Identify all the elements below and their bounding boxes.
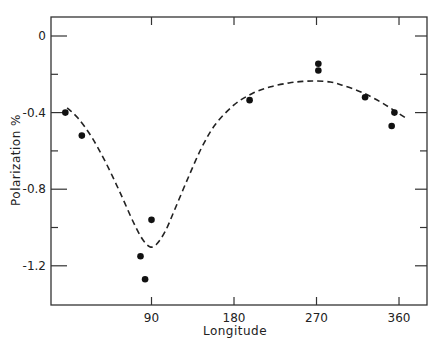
y-axis-label: Polarization % xyxy=(9,114,23,206)
data-point xyxy=(246,97,253,104)
fitted-curve xyxy=(67,81,406,247)
data-point xyxy=(62,109,69,116)
data-point xyxy=(315,67,322,74)
data-point xyxy=(315,60,322,67)
x-axis-label: Longitude xyxy=(203,324,267,338)
x-tick-label: 180 xyxy=(223,311,246,325)
y-axis-ticks: 0-0.4-0.8-1.2 xyxy=(23,29,427,273)
chart: 0-0.4-0.8-1.2 90180270360 Longitude Pola… xyxy=(0,0,441,348)
y-tick-label: -1.2 xyxy=(23,259,46,273)
y-tick-label: -0.4 xyxy=(23,106,46,120)
data-point xyxy=(79,132,86,139)
x-tick-label: 360 xyxy=(388,311,411,325)
data-point xyxy=(388,123,395,130)
y-tick-label: -0.8 xyxy=(23,182,46,196)
fitted-curve-path xyxy=(67,81,406,247)
y-tick-label: 0 xyxy=(38,29,46,43)
x-tick-label: 90 xyxy=(144,311,159,325)
data-point xyxy=(137,253,144,260)
data-point xyxy=(148,217,155,224)
x-tick-label: 270 xyxy=(305,311,328,325)
plot-frame xyxy=(51,17,427,305)
x-axis-ticks: 90180270360 xyxy=(144,17,411,325)
data-point xyxy=(391,109,398,116)
data-point xyxy=(142,276,149,283)
plot-border xyxy=(51,17,427,305)
data-points xyxy=(62,60,398,282)
data-point xyxy=(362,94,369,101)
